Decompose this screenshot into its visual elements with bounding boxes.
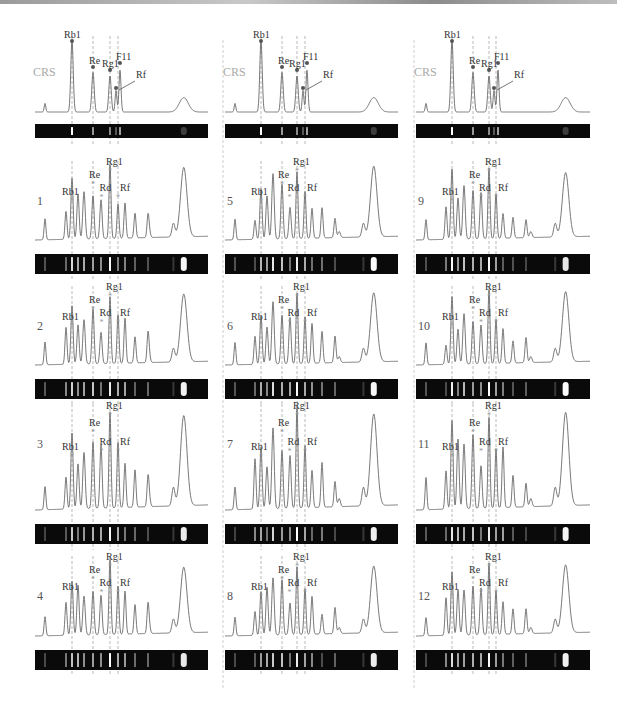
band: [502, 382, 504, 396]
peak-star-icon: *: [303, 588, 307, 597]
peak-label-rf: Rf: [498, 436, 509, 447]
peak-label-rb1: Rb1: [253, 29, 270, 40]
band: [296, 127, 298, 135]
chromatogram-trace: [35, 559, 208, 636]
peak-label-f11: F11: [303, 51, 318, 62]
band: [92, 527, 94, 541]
peak-star-icon: *: [70, 592, 74, 601]
band: [65, 653, 67, 667]
chromatogram-trace: [416, 412, 590, 510]
band: [134, 653, 136, 667]
band: [83, 653, 85, 667]
peak-label-rf: Rf: [120, 577, 131, 588]
peak-star-icon: *: [450, 197, 454, 206]
band: [147, 382, 149, 396]
band: [124, 527, 126, 541]
band: [495, 527, 497, 541]
panel-5: 5*Rb1*Re*Rd*Rg1*Rf: [225, 156, 398, 280]
peak-label-rb1: Rb1: [442, 311, 459, 322]
band: [147, 653, 149, 667]
panel-8: 8*Rb1*Re*Rd*Rg1*Rf: [225, 551, 398, 676]
peak-label-rd: Rd: [288, 307, 300, 318]
band: [488, 127, 490, 135]
peak-label-rf: Rf: [120, 436, 131, 447]
band: [124, 257, 126, 271]
peak-label-rf: Rf: [498, 182, 509, 193]
peak-star-icon: *: [91, 305, 95, 314]
peak-star-icon: *: [100, 447, 104, 456]
band: [311, 257, 313, 271]
band: [92, 653, 94, 667]
peak-label-re: Re: [278, 55, 290, 66]
band: [311, 382, 313, 396]
band: [260, 382, 262, 396]
peak-label-rg1: Rg1: [485, 281, 502, 292]
band: [371, 653, 377, 667]
peak-star-icon: *: [479, 193, 483, 202]
band: [117, 382, 119, 396]
band: [472, 382, 474, 396]
peak-star-icon: *: [280, 305, 284, 314]
band: [181, 527, 187, 541]
band: [266, 653, 268, 667]
band: [425, 527, 427, 541]
panel-2: 2*Rb1*Re*Rd*Rg1*Rf: [35, 281, 208, 405]
band: [445, 382, 447, 396]
peak-label-rd: Rd: [479, 436, 491, 447]
band: [425, 653, 427, 667]
band: [334, 382, 336, 396]
peak-label-rd: Rd: [100, 577, 112, 588]
band: [457, 382, 459, 396]
band: [109, 257, 111, 271]
peak-label-rf: Rf: [136, 69, 147, 80]
band: [65, 257, 67, 271]
panel-label: 5: [227, 194, 233, 208]
band: [109, 382, 111, 396]
peak-label-rg1: Rg1: [293, 281, 310, 292]
panel-label: 12: [418, 589, 430, 603]
peak-star-icon: *: [116, 447, 120, 456]
peak-label-re: Re: [278, 169, 290, 180]
band: [495, 382, 497, 396]
peak-label-rb1: Rb1: [251, 311, 268, 322]
band: [334, 257, 336, 271]
peak-label-rb1: Rb1: [251, 581, 268, 592]
band: [109, 127, 111, 135]
band: [100, 257, 102, 271]
peak-label-rb1: Rb1: [62, 581, 79, 592]
peak-label-rb1: Rb1: [442, 186, 459, 197]
band: [321, 382, 323, 396]
peak-star-icon: *: [487, 411, 491, 420]
band: [425, 257, 427, 271]
band: [445, 653, 447, 667]
band: [488, 527, 490, 541]
peak-star-icon: *: [295, 292, 299, 301]
band: [296, 653, 298, 667]
peak-star-icon: *: [295, 411, 299, 420]
peak-star-icon: *: [70, 197, 74, 206]
band: [480, 527, 482, 541]
band: [77, 257, 79, 271]
band: [488, 257, 490, 271]
band: [512, 653, 514, 667]
band: [272, 527, 274, 541]
band: [172, 653, 174, 667]
peak-star-icon: *: [479, 447, 483, 456]
band: [445, 527, 447, 541]
band: [457, 653, 459, 667]
peak-label-rb1: Rb1: [442, 581, 459, 592]
band: [92, 382, 94, 396]
band: [311, 653, 313, 667]
peak-star-icon: *: [471, 575, 475, 584]
peak-star-icon: *: [100, 588, 104, 597]
panel-label: 9: [418, 194, 424, 208]
panel-label: CRS: [223, 65, 246, 79]
band: [289, 527, 291, 541]
peak-star-icon: *: [70, 322, 74, 331]
band: [334, 527, 336, 541]
panel-12: 12*Rb1*Re*Rd*Rg1*Rf: [416, 551, 590, 676]
band: [451, 257, 453, 271]
band: [371, 127, 377, 135]
peak-marker: [492, 86, 496, 90]
band: [480, 257, 482, 271]
